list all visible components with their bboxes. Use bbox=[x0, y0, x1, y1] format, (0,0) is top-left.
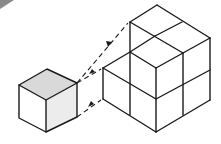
small-cube bbox=[19, 69, 77, 132]
arrow-middle bbox=[77, 69, 101, 83]
cube-diagram bbox=[0, 0, 221, 144]
corner-shade bbox=[0, 0, 14, 9]
arrow-bottom bbox=[77, 100, 101, 117]
large-cube-structure bbox=[103, 5, 210, 132]
arrowhead-top-icon bbox=[106, 41, 112, 47]
